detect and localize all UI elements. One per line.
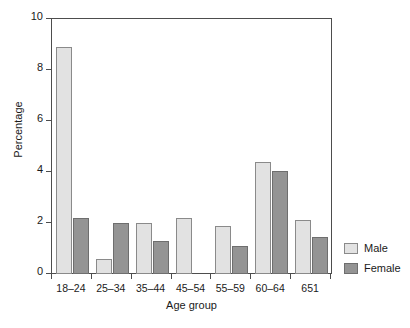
legend-swatch-male [344, 243, 358, 254]
y-tick-label: 10 [31, 11, 43, 22]
bar-male-3 [176, 218, 192, 274]
x-axis-group-label: 55–59 [210, 283, 250, 294]
bar-female-2 [153, 241, 169, 274]
bar-female-0 [73, 218, 89, 274]
x-axis-group-label: 35–44 [131, 283, 171, 294]
legend-swatch-female [344, 263, 358, 274]
x-tick-mark [91, 274, 92, 279]
bars-layer [52, 19, 331, 274]
y-tick-label: 2 [37, 215, 43, 226]
bar-male-5 [255, 162, 271, 274]
x-axis-group-label: 18–24 [51, 283, 91, 294]
y-tick-label: 8 [37, 62, 43, 73]
bar-chart: Percentage 0246810 18–2425–3435–4445–545… [0, 0, 410, 328]
y-tick-label: 4 [37, 164, 43, 175]
x-axis-group-label: 60–64 [250, 283, 290, 294]
x-tick-mark [250, 274, 251, 279]
bar-male-4 [215, 226, 231, 274]
y-tick-label: 6 [37, 113, 43, 124]
x-axis-group-label: 25–34 [91, 283, 131, 294]
x-tick-mark [171, 274, 172, 279]
bar-male-1 [96, 259, 112, 274]
bar-female-5 [272, 171, 288, 274]
x-axis-title: Age group [51, 300, 332, 311]
legend-item-male: Male [344, 238, 410, 258]
bar-female-1 [113, 223, 129, 274]
y-axis: 0246810 [0, 18, 51, 274]
bar-male-6 [295, 220, 311, 274]
legend-item-female: Female [344, 258, 410, 278]
x-axis-group-label: 45–54 [171, 283, 211, 294]
bar-male-0 [56, 47, 72, 274]
x-axis-group-label: 651 [290, 283, 330, 294]
legend-label-female: Female [364, 263, 401, 274]
bar-male-2 [136, 223, 152, 274]
legend-label-male: Male [364, 243, 388, 254]
x-tick-mark [330, 274, 331, 279]
y-tick-label: 0 [37, 266, 43, 277]
x-tick-mark [51, 274, 52, 279]
chart-legend: MaleFemale [344, 238, 410, 278]
bar-female-6 [312, 237, 328, 274]
bar-female-4 [232, 246, 248, 274]
x-tick-mark [131, 274, 132, 279]
x-tick-mark [210, 274, 211, 279]
x-tick-mark [290, 274, 291, 279]
